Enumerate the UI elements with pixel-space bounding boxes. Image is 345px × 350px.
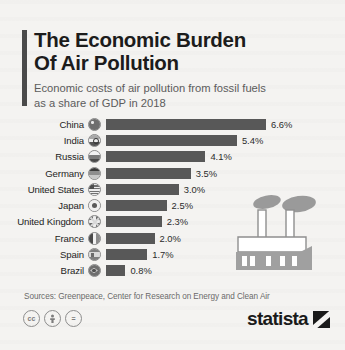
flag-icon-france [88,232,101,245]
sources-text: Sources: Greenpeace, Center for Research… [24,292,270,301]
title-line-1: The Economic Burden [34,28,246,51]
bar-value-germany: 3.5% [196,168,217,179]
page-title: The Economic Burden Of Air Pollution [34,28,331,74]
bar-russia [106,151,205,162]
bar-brazil [106,265,125,276]
bar-united-kingdom [106,216,162,227]
row-label-germany: Germany [0,168,88,179]
table-row: India 5.4% [0,132,345,148]
statista-logo[interactable]: statista [247,308,330,330]
row-label-united-states: United States [0,184,88,195]
bar-wrap: 4.1% [106,151,345,162]
bar-france [106,233,155,244]
statista-wordmark: statista [247,308,308,330]
bar-united-states [106,184,179,195]
row-label-spain: Spain [0,249,88,260]
bar-value-france: 2.0% [160,233,181,244]
bar-value-united-states: 3.0% [184,184,205,195]
bar-value-spain: 1.7% [152,249,173,260]
row-label-france: France [0,233,88,244]
row-label-russia: Russia [0,151,88,162]
row-label-india: India [0,135,88,146]
bar-china [106,119,266,130]
flag-icon-united-kingdom [88,215,101,228]
cc-nd-equals-icon[interactable]: = [65,310,82,327]
flag-icon-india [88,134,101,147]
row-label-brazil: Brazil [0,265,88,276]
flag-icon-brazil [88,264,101,277]
header: The Economic Burden Of Air Pollution Eco… [22,28,331,111]
bar-india [106,135,237,146]
table-row: Germany 3.5% [0,165,345,181]
bar-japan [106,200,167,211]
bar-value-russia: 4.1% [210,151,231,162]
subtitle-line-1: Economic costs of air pollution from fos… [34,82,266,94]
factory-with-smoke-illustration [232,190,332,278]
statista-mark-icon [313,311,330,328]
bar-value-brazil: 0.8% [130,265,151,276]
bar-wrap: 6.6% [106,119,345,130]
subtitle-line-2: as a share of GDP in 2018 [34,97,166,109]
bar-germany [106,168,191,179]
flag-icon-russia [88,150,101,163]
bar-value-japan: 2.5% [172,200,193,211]
row-label-china: China [0,119,88,130]
infographic-root: The Economic Burden Of Air Pollution Eco… [0,0,345,350]
table-row: China 6.6% [0,116,345,132]
bar-wrap: 3.5% [106,168,345,179]
flag-icon-china [88,118,101,131]
bar-spain [106,249,147,260]
title-accent-bar [22,30,27,106]
flag-icon-spain [88,248,101,261]
cc-by-person-icon[interactable] [44,310,61,327]
bar-wrap: 5.4% [106,135,345,146]
row-label-united-kingdom: United Kingdom [0,216,88,227]
bar-value-china: 6.6% [271,119,292,130]
page-subtitle: Economic costs of air pollution from fos… [34,81,331,111]
cc-icon[interactable]: cc [23,310,40,327]
creative-commons-license: cc = [23,310,82,327]
title-line-2: Of Air Pollution [34,51,179,74]
table-row: Russia 4.1% [0,149,345,165]
flag-icon-japan [88,199,101,212]
bar-value-india: 5.4% [242,135,263,146]
flag-icon-united-states [88,183,101,196]
row-label-japan: Japan [0,200,88,211]
bar-value-united-kingdom: 2.3% [167,216,188,227]
flag-icon-germany [88,167,101,180]
